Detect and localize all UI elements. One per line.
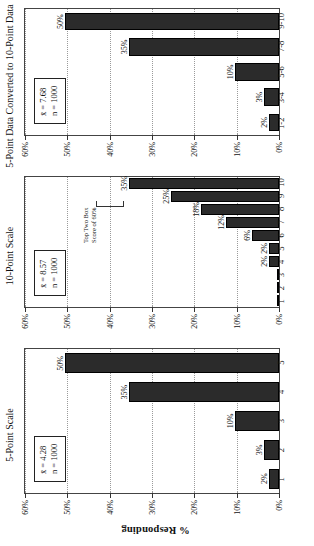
- y-tick-label: 40%: [105, 500, 114, 527]
- bar[interactable]: [201, 204, 279, 214]
- bar-value-label: 6%: [243, 230, 252, 241]
- y-tick-mark: [25, 493, 26, 498]
- y-tick-label: 50%: [63, 142, 72, 169]
- x-tick-label: 10: [276, 176, 286, 189]
- x-tick-label: 7-8: [276, 34, 286, 60]
- sample-size: n = 1000: [49, 258, 60, 288]
- bar[interactable]: [235, 411, 279, 431]
- y-tick-label: 50%: [63, 314, 72, 341]
- x-axis-tick-labels: 12345678910: [276, 176, 286, 308]
- bar[interactable]: [252, 230, 279, 240]
- panel-title: 10-Point Scale: [4, 170, 15, 342]
- x-tick-label: 3-4: [276, 85, 286, 111]
- y-tick-label: 20%: [190, 314, 199, 341]
- chart-panel-5-point-scale: 5-Point Scale 0%10%20%30%40%50%60%2%3%10…: [0, 342, 314, 528]
- y-tick-mark: [67, 493, 68, 498]
- bar-value-label: 50%: [56, 14, 65, 29]
- y-tick-label: 10%: [232, 500, 241, 527]
- x-tick-label: 2: [276, 436, 286, 465]
- bar-group: 18%: [201, 203, 279, 216]
- y-tick-label: 10%: [232, 142, 241, 169]
- y-tick-label: 60%: [21, 500, 30, 527]
- x-tick-label: 4: [276, 377, 286, 406]
- y-tick-label: 50%: [63, 500, 72, 527]
- figure: % Responding 5-Point Scale 0%10%20%30%40…: [0, 0, 314, 546]
- y-tick-mark: [152, 493, 153, 498]
- bar-value-label: 2%: [260, 117, 269, 128]
- y-tick-mark: [194, 307, 195, 312]
- bar-value-label: 35%: [120, 176, 129, 191]
- x-tick-label: 9-10: [276, 8, 286, 34]
- x-tick-label: 3: [276, 406, 286, 435]
- bar-group: 25%: [171, 190, 279, 203]
- bar-value-label: 2%: [260, 473, 269, 484]
- chart-panel-converted-10-point: 5-Point Data Converted to 10-Point Data …: [0, 2, 314, 170]
- bar-value-label: 2%: [260, 256, 269, 267]
- y-tick-mark: [152, 307, 153, 312]
- y-tick-mark: [67, 307, 68, 312]
- rotated-figure-wrapper: % Responding 5-Point Scale 0%10%20%30%40…: [0, 0, 314, 546]
- bar-value-label: 10%: [226, 65, 235, 80]
- x-tick-label: 5: [276, 348, 286, 377]
- y-tick-label: 60%: [21, 142, 30, 169]
- bar[interactable]: [235, 63, 279, 81]
- x-axis-tick-labels: 12345: [276, 348, 286, 494]
- annotation-line-2: Score of 60%: [90, 208, 98, 243]
- bar-group: 50%: [65, 349, 279, 378]
- x-tick-label: 5: [276, 242, 286, 255]
- bar[interactable]: [129, 178, 279, 188]
- y-tick-mark: [237, 493, 238, 498]
- y-tick-label: 30%: [148, 314, 157, 341]
- bar-value-label: 35%: [120, 39, 129, 54]
- bar[interactable]: [171, 191, 279, 201]
- y-tick-mark: [194, 493, 195, 498]
- top-two-box-annotation: Top Two Box Score of 60%: [82, 208, 98, 243]
- y-tick-mark: [110, 135, 111, 140]
- bar-group: 12%: [226, 216, 279, 229]
- bar-group: 10%: [235, 59, 279, 84]
- stats-box: x̄ = 7.68 n = 1000: [34, 78, 66, 124]
- x-tick-label: 6: [276, 229, 286, 242]
- mean-value: x̄ = 8.57: [38, 258, 49, 288]
- bar-value-label: 50%: [56, 356, 65, 371]
- bar-group: 35%: [129, 378, 279, 407]
- x-tick-label: 2: [276, 282, 286, 295]
- y-tick-mark: [237, 135, 238, 140]
- bar[interactable]: [226, 217, 279, 227]
- y-tick-label: 0%: [275, 142, 284, 169]
- y-tick-label: 20%: [190, 500, 199, 527]
- stats-box: x̄ = 4.28 n = 1000: [34, 436, 66, 482]
- y-tick-label: 20%: [190, 142, 199, 169]
- y-tick-label: 0%: [275, 500, 284, 527]
- y-tick-mark: [237, 307, 238, 312]
- x-tick-label: 1: [276, 295, 286, 308]
- bar-value-label: 2%: [260, 243, 269, 254]
- bar-value-label: 3%: [255, 444, 264, 455]
- chart-panel-10-point-scale: 10-Point Scale 0%10%20%30%40%50%60%2%2%6…: [0, 170, 314, 342]
- x-tick-label: 5-6: [276, 59, 286, 85]
- sample-size: n = 1000: [49, 86, 60, 116]
- panel-title: 5-Point Data Converted to 10-Point Data: [4, 2, 15, 170]
- bar-value-label: 3%: [255, 92, 264, 103]
- x-tick-label: 7: [276, 216, 286, 229]
- sample-size: n = 1000: [49, 444, 60, 474]
- y-tick-label: 30%: [148, 500, 157, 527]
- bar[interactable]: [129, 38, 279, 56]
- x-axis-tick-labels: 1-23-45-67-89-10: [276, 8, 286, 136]
- bar-group: 35%: [129, 34, 279, 59]
- panel-title: 5-Point Scale: [4, 342, 15, 528]
- x-tick-label: 1-2: [276, 110, 286, 136]
- x-tick-label: 9: [276, 189, 286, 202]
- y-tick-label: 40%: [105, 314, 114, 341]
- y-tick-label: 40%: [105, 142, 114, 169]
- bar-value-label: 12%: [217, 215, 226, 230]
- x-tick-label: 4: [276, 255, 286, 268]
- bar-value-label: 10%: [226, 414, 235, 429]
- y-tick-mark: [25, 135, 26, 140]
- y-tick-mark: [194, 135, 195, 140]
- y-tick-label: 10%: [232, 314, 241, 341]
- bar[interactable]: [65, 354, 279, 374]
- bar[interactable]: [65, 13, 279, 31]
- bar-value-label: 18%: [192, 202, 201, 217]
- bar[interactable]: [129, 382, 279, 402]
